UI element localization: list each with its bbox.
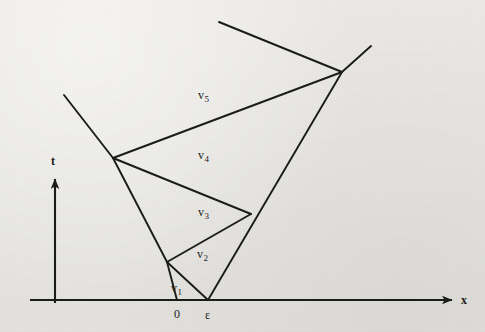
t-axis-label: t <box>51 155 55 167</box>
segment-c-to-tipleft <box>64 95 113 158</box>
segment-d-to-tipul <box>219 22 342 72</box>
segment-c-to-d <box>113 72 342 158</box>
segment-d-to-tipur <box>342 46 371 72</box>
region-label-v1-base: v <box>171 281 177 295</box>
region-label-v5-base: v <box>198 88 204 102</box>
region-label-v3-subscript: 3 <box>205 211 210 221</box>
region-label-v3-base: v <box>198 205 204 219</box>
region-label-v5-subscript: 5 <box>205 94 210 104</box>
worldlines-group <box>64 22 371 300</box>
region-label-v1-subscript: 1 <box>178 287 183 297</box>
region-label-v2-subscript: 2 <box>204 253 209 263</box>
x-axis-label: x <box>461 294 467 306</box>
spacetime-diagram-canvas <box>0 0 485 332</box>
region-label-v4-base: v <box>198 148 204 162</box>
segment-eps-to-d <box>208 72 342 300</box>
tick-label-zero: 0 <box>174 308 180 320</box>
segment-a-to-b <box>167 214 251 262</box>
axes-group <box>30 179 452 303</box>
figure-root: x t 0 ε v1 v2 v3 v4 v5 <box>0 0 485 332</box>
segment-b-to-c <box>113 158 251 214</box>
region-label-v4: v4 <box>198 149 209 164</box>
region-label-v5: v5 <box>198 89 209 104</box>
segment-a-to-c <box>113 158 167 262</box>
tick-label-epsilon: ε <box>205 309 210 321</box>
region-label-v1: v1 <box>171 282 182 297</box>
region-label-v4-subscript: 4 <box>205 154 210 164</box>
region-label-v2: v2 <box>197 248 208 263</box>
region-label-v2-base: v <box>197 247 203 261</box>
region-label-v3: v3 <box>198 206 209 221</box>
